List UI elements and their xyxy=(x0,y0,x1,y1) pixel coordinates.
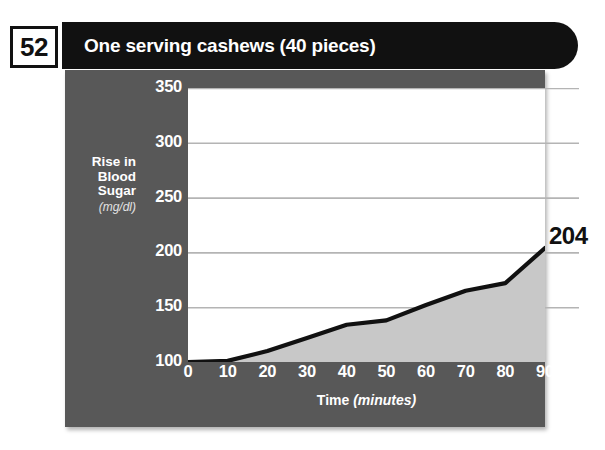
x-tick-label: 0 xyxy=(184,362,193,381)
plot-area xyxy=(188,88,545,362)
figure-number: 52 xyxy=(20,32,48,63)
end-value-label: 204 xyxy=(549,222,588,250)
x-tick-label: 50 xyxy=(377,362,395,381)
y-tick-label: 300 xyxy=(120,132,182,151)
x-tick-label: 20 xyxy=(258,362,276,381)
y-tick-label: 350 xyxy=(120,77,182,96)
chart-title-bar: One serving cashews (40 pieces) xyxy=(62,22,578,69)
y-tick-label: 100 xyxy=(120,351,182,370)
x-axis-units: (minutes) xyxy=(353,392,416,408)
x-tick-label: 60 xyxy=(417,362,435,381)
y-tick-label: 250 xyxy=(120,187,182,206)
x-axis-title: Time (minutes) xyxy=(188,392,545,408)
x-tick-label: 30 xyxy=(298,362,316,381)
x-tick-label: 80 xyxy=(496,362,514,381)
chart-title: One serving cashews (40 pieces) xyxy=(62,35,376,57)
y-axis-ticks: 100150200250300350 xyxy=(120,70,182,427)
y-tick-label: 200 xyxy=(120,241,182,260)
x-axis-title-text: Time xyxy=(317,392,349,408)
x-tick-label: 90 xyxy=(536,362,554,381)
x-tick-label: 10 xyxy=(219,362,237,381)
chart-figure: 52 One serving cashews (40 pieces) Rise … xyxy=(0,0,605,450)
x-axis-ticks: 0102030405060708090 xyxy=(188,362,545,388)
figure-number-badge: 52 xyxy=(10,26,58,68)
chart-svg xyxy=(188,88,545,362)
y-tick-label: 150 xyxy=(120,296,182,315)
x-tick-label: 70 xyxy=(457,362,475,381)
x-tick-label: 40 xyxy=(338,362,356,381)
